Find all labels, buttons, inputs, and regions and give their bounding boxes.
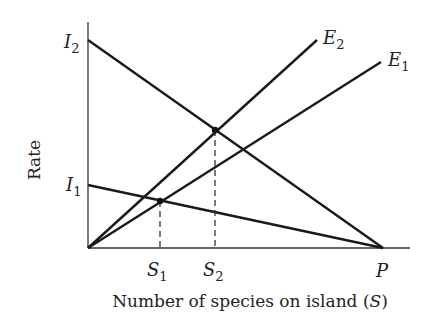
label-e2: E2 (322, 27, 344, 52)
equilibrium-point-s2 (212, 127, 218, 133)
extinction-line-e2 (88, 40, 317, 248)
extinction-line-e1 (88, 62, 381, 248)
label-p: P (375, 260, 389, 281)
label-i1: I1 (65, 174, 81, 199)
equilibrium-point-s1 (157, 198, 163, 204)
island-biogeography-diagram: I2 I1 E2 E1 S1 S2 P Rate Number of speci… (0, 0, 436, 315)
label-i2: I2 (63, 31, 79, 56)
label-s2: S2 (203, 259, 224, 284)
y-axis-title: Rate (24, 140, 44, 180)
label-e1: E1 (387, 49, 409, 74)
x-axis-title: Number of species on island (S) (112, 291, 388, 311)
label-s1: S1 (147, 259, 168, 284)
